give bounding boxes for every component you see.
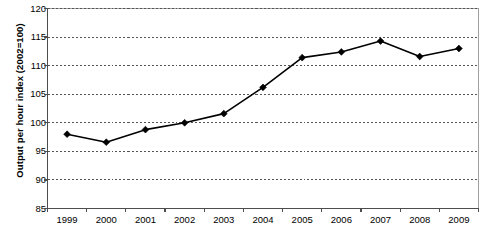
x-axis-tick-label: 2002 xyxy=(165,214,205,225)
x-axis-tick-label: 2003 xyxy=(204,214,244,225)
line-chart-figure: Output per hour index (2002=100) 8590951… xyxy=(0,0,494,237)
x-axis-tick-label: 2006 xyxy=(321,214,361,225)
x-axis-tick-label: 2008 xyxy=(400,214,440,225)
x-axis-tick-label-group: 1999200020012002200320042005200620072008… xyxy=(0,0,494,237)
x-axis-tick-label: 2000 xyxy=(86,214,126,225)
x-axis-tick-label: 2004 xyxy=(243,214,283,225)
x-axis-tick-label: 2001 xyxy=(125,214,165,225)
x-axis-tick-label: 2007 xyxy=(361,214,401,225)
source-note xyxy=(8,230,308,237)
x-axis-tick-label: 1999 xyxy=(47,214,87,225)
x-axis-tick-label: 2005 xyxy=(282,214,322,225)
x-axis-tick-label: 2009 xyxy=(439,214,479,225)
